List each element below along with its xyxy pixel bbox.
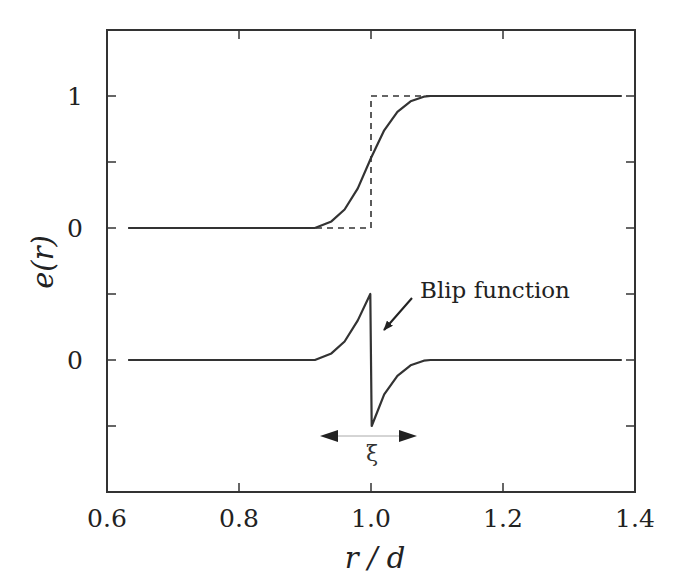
y-axis-title: e(r) — [26, 235, 60, 289]
smoothed-step-line — [128, 96, 622, 228]
x-tick-label: 1.4 — [615, 504, 655, 533]
tick-labels: 0.60.81.01.21.4100 — [67, 82, 655, 533]
blip-function-line — [128, 294, 622, 426]
blip-arrow-icon — [384, 298, 412, 330]
x-tick-label: 1.2 — [483, 504, 523, 533]
x-axis-title: r / d — [345, 541, 406, 575]
sharp-step-line — [305, 96, 430, 228]
xi-right-arrowhead-icon — [399, 430, 417, 442]
series-layer — [128, 96, 622, 426]
y-tick-label: 1 — [67, 82, 83, 111]
y-tick-label: 0 — [67, 346, 83, 375]
chart: 0.60.81.01.21.4100 Blip function ξ r / d… — [0, 0, 673, 588]
x-tick-label: 0.8 — [219, 504, 259, 533]
xi-left-arrowhead-icon — [320, 430, 338, 442]
y-tick-label: 0 — [67, 214, 83, 243]
blip-function-label: Blip function — [420, 277, 570, 303]
xi-label: ξ — [366, 441, 378, 466]
x-tick-label: 1.0 — [351, 504, 391, 533]
x-tick-label: 0.6 — [87, 504, 127, 533]
